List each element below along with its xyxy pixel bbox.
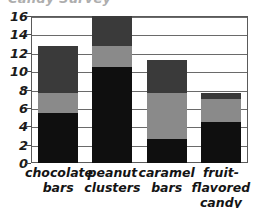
- x-axis-labels: chocolate barspeanut clusterscaramel bar…: [31, 165, 248, 207]
- y-tick-label-4: 4: [2, 119, 28, 134]
- y-tick-label-12: 12: [2, 45, 28, 60]
- bar-segment-3-0: [201, 122, 241, 163]
- chart-title: Candy Survey: [8, 0, 111, 6]
- y-tick-mark-4: [26, 126, 31, 127]
- y-tick-label-2: 2: [2, 137, 28, 152]
- bar-segment-3-1: [201, 99, 241, 122]
- y-tick-mark-8: [26, 90, 31, 91]
- y-tick-mark-2: [26, 145, 31, 146]
- y-tick-label-8: 8: [2, 82, 28, 97]
- x-category-label-3: fruit-flavored candy bars: [188, 165, 254, 208]
- y-tick-mark-16: [26, 16, 31, 17]
- bar-2: [147, 60, 187, 163]
- plot-area: [31, 16, 248, 163]
- bar-segment-1-1: [92, 46, 132, 67]
- bar-segment-0-0: [38, 113, 78, 163]
- bar-1: [92, 16, 132, 163]
- y-tick-label-16: 16: [2, 9, 28, 24]
- y-tick-label-10: 10: [2, 64, 28, 79]
- stacked-bar-chart: Candy Survey chocolate barspeanut cluste…: [0, 0, 264, 208]
- bars-layer: [31, 16, 248, 163]
- bar-segment-2-2: [147, 60, 187, 93]
- y-tick-mark-10: [26, 71, 31, 72]
- y-tick-mark-12: [26, 53, 31, 54]
- bar-segment-0-1: [38, 93, 78, 113]
- y-tick-label-0: 0: [2, 156, 28, 171]
- y-tick-mark-0: [26, 163, 31, 164]
- bar-segment-1-0: [92, 67, 132, 163]
- bar-segment-0-2: [38, 46, 78, 93]
- y-tick-mark-6: [26, 108, 31, 109]
- y-tick-label-6: 6: [2, 100, 28, 115]
- bar-segment-2-0: [147, 139, 187, 163]
- bar-segment-1-2: [92, 16, 132, 46]
- bar-3: [201, 93, 241, 163]
- bar-0: [38, 46, 78, 163]
- y-tick-label-14: 14: [2, 27, 28, 42]
- bar-segment-2-1: [147, 93, 187, 139]
- y-tick-mark-14: [26, 34, 31, 35]
